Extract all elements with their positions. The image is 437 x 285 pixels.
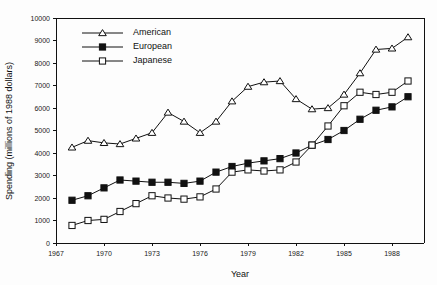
marker-open-triangle [180, 118, 188, 124]
plot-axes [56, 18, 424, 243]
marker-open-square [293, 159, 299, 165]
marker-open-square [245, 167, 251, 173]
legend-item-american[interactable]: American [82, 27, 171, 37]
x-tick-label: 1985 [336, 250, 352, 257]
marker-open-square [69, 222, 75, 228]
marker-filled-square [133, 178, 139, 184]
marker-filled-square [357, 116, 363, 122]
marker-open-triangle [148, 129, 156, 135]
x-tick-label: 1967 [48, 250, 64, 257]
x-axis-ticks: 19671970197319761979198219851988 [48, 243, 400, 257]
y-tick-label: 5000 [34, 127, 50, 134]
legend-label: American [133, 27, 171, 37]
y-tick-label: 2000 [34, 195, 50, 202]
marker-filled-square [99, 44, 105, 50]
marker-open-square [213, 186, 219, 192]
y-tick-label: 1000 [34, 217, 50, 224]
marker-filled-square [197, 178, 203, 184]
marker-open-square [309, 142, 315, 148]
marker-open-triangle [164, 109, 172, 115]
chart-legend: AmericanEuropeanJapanese [82, 27, 172, 65]
legend-item-european[interactable]: European [82, 41, 172, 51]
marker-open-triangle [276, 78, 284, 84]
marker-open-square [229, 169, 235, 175]
marker-open-square [99, 58, 105, 64]
marker-filled-square [245, 160, 251, 166]
y-tick-label: 10000 [31, 15, 51, 22]
marker-open-triangle [68, 144, 76, 150]
marker-filled-square [405, 94, 411, 100]
plot-border [56, 18, 424, 243]
marker-open-square [405, 78, 411, 84]
x-tick-label: 1988 [384, 250, 400, 257]
marker-open-square [101, 216, 107, 222]
marker-filled-square [213, 169, 219, 175]
legend-item-japanese[interactable]: Japanese [82, 55, 172, 65]
marker-open-triangle [404, 34, 412, 40]
marker-open-square [197, 194, 203, 200]
marker-open-triangle [388, 45, 396, 51]
marker-filled-square [341, 127, 347, 133]
marker-open-square [341, 103, 347, 109]
marker-filled-square [181, 180, 187, 186]
marker-filled-square [117, 177, 123, 183]
marker-open-square [277, 167, 283, 173]
marker-open-square [357, 89, 363, 95]
marker-open-square [133, 201, 139, 207]
marker-filled-square [261, 158, 267, 164]
y-tick-label: 3000 [34, 172, 50, 179]
marker-filled-square [69, 197, 75, 203]
marker-open-triangle [212, 118, 220, 124]
y-tick-label: 0 [46, 240, 50, 247]
legend-label: Japanese [133, 55, 172, 65]
marker-open-triangle [340, 91, 348, 97]
legend-label: European [133, 41, 172, 51]
series-line-japanese [72, 81, 408, 225]
marker-filled-square [277, 156, 283, 162]
y-axis-ticks: 0100020003000400050006000700080009000100… [31, 15, 56, 247]
marker-open-square [389, 89, 395, 95]
x-axis-title: Year [231, 269, 249, 279]
marker-open-triangle [196, 129, 204, 135]
chart-canvas: 0100020003000400050006000700080009000100… [0, 0, 437, 285]
marker-open-triangle [356, 70, 364, 76]
y-tick-label: 7000 [34, 82, 50, 89]
marker-filled-square [101, 185, 107, 191]
series-european [69, 94, 411, 204]
marker-open-triangle [84, 137, 92, 143]
marker-filled-square [85, 193, 91, 199]
series-japanese [69, 78, 411, 229]
marker-filled-square [293, 150, 299, 156]
x-tick-label: 1976 [192, 250, 208, 257]
marker-open-square [165, 195, 171, 201]
y-tick-label: 8000 [34, 60, 50, 67]
y-tick-label: 4000 [34, 150, 50, 157]
data-series-group [68, 34, 412, 229]
marker-open-square [373, 91, 379, 97]
marker-open-square [181, 196, 187, 202]
series-line-european [72, 97, 408, 201]
marker-open-triangle [132, 135, 140, 141]
marker-open-square [261, 168, 267, 174]
marker-filled-square [373, 107, 379, 113]
marker-open-square [117, 208, 123, 214]
marker-filled-square [165, 179, 171, 185]
marker-filled-square [325, 136, 331, 142]
marker-filled-square [389, 104, 395, 110]
marker-open-square [149, 193, 155, 199]
plot-frame [56, 18, 424, 243]
x-tick-label: 1979 [240, 250, 256, 257]
x-tick-label: 1970 [96, 250, 112, 257]
x-tick-label: 1973 [144, 250, 160, 257]
x-tick-label: 1982 [288, 250, 304, 257]
marker-open-square [85, 217, 91, 223]
marker-filled-square [149, 179, 155, 185]
marker-open-square [325, 123, 331, 129]
y-tick-label: 6000 [34, 105, 50, 112]
y-tick-label: 9000 [34, 37, 50, 44]
chart-figure: 0100020003000400050006000700080009000100… [0, 0, 437, 285]
y-axis-title: Spending (millions of 1988 dollars) [4, 62, 14, 200]
